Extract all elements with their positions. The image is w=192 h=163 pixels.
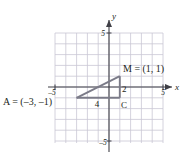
y-axis-arrow <box>106 20 112 27</box>
y-tick-label-5: 5 <box>101 29 105 38</box>
x-axis-label: x <box>174 82 179 92</box>
segment-label-horizontal: 4 <box>95 99 100 109</box>
coordinate-plane-figure: –5 5 5 –5 x y M = (1, 1) A = (–3, –1) 2 … <box>0 0 192 163</box>
y-axis-label: y <box>111 11 116 21</box>
point-label-m: M = (1, 1) <box>123 63 164 75</box>
axes <box>48 20 172 152</box>
point-label-a: A = (–3, –1) <box>3 96 52 108</box>
x-tick-label-5: 5 <box>161 88 165 97</box>
x-axis-arrow <box>165 84 172 90</box>
coordinate-plane-svg: –5 5 5 –5 x y M = (1, 1) A = (–3, –1) 2 … <box>0 0 192 163</box>
y-tick-label-minus5: –5 <box>98 138 107 147</box>
segment-label-vertical: 2 <box>122 84 127 94</box>
point-label-c: C <box>121 100 127 110</box>
